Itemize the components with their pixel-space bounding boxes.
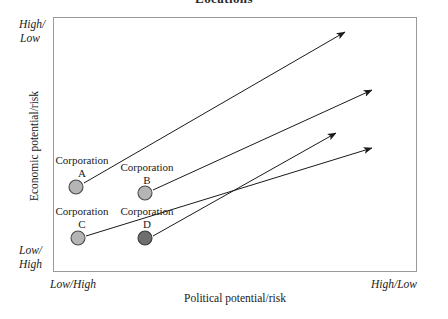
x-axis-right-label: High/Low [371, 277, 417, 291]
label-corporation-b: Corporation B [116, 161, 178, 186]
label-corporation-d-letter: D [115, 218, 179, 231]
label-corporation-c-word: Corporation [51, 205, 113, 218]
y-axis-title: Economic potential/risk [28, 66, 40, 226]
y-axis-bottom-label-line2: High [19, 257, 42, 271]
label-corporation-d: Corporation D [115, 205, 179, 230]
label-corporation-c-letter: C [51, 218, 113, 231]
label-corporation-b-word: Corporation [116, 161, 178, 174]
y-axis-bottom-label: Low/ High [19, 243, 42, 271]
y-axis-top-label-line2: Low [20, 31, 45, 45]
x-axis-title: Political potential/risk [53, 292, 417, 304]
label-corporation-c: Corporation C [51, 205, 113, 230]
label-corporation-a-word: Corporation [51, 154, 113, 167]
label-corporation-a: Corporation A [51, 154, 113, 179]
y-axis-bottom-label-line1: Low/ [19, 243, 42, 257]
label-corporation-b-letter: B [116, 174, 178, 187]
label-corporation-a-letter: A [51, 167, 113, 180]
locations-diagram: Locations High/ Low Low/ High Low/High H… [0, 0, 448, 319]
plot-frame [53, 17, 417, 272]
x-axis-left-label: Low/High [50, 277, 96, 291]
figure-title: Locations [0, 0, 448, 7]
label-corporation-d-word: Corporation [115, 205, 179, 218]
y-axis-top-label: High/ Low [19, 17, 45, 45]
y-axis-top-label-line1: High/ [19, 17, 45, 31]
